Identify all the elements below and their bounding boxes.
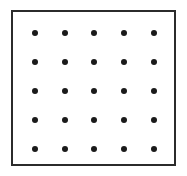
grid-dot <box>121 88 127 94</box>
grid-dot <box>32 88 38 94</box>
figure-root <box>0 0 187 176</box>
grid-dot <box>32 30 38 36</box>
grid-dot <box>151 59 157 65</box>
grid-dot <box>62 59 68 65</box>
grid-dot <box>91 117 97 123</box>
grid-dot <box>121 117 127 123</box>
grid-dot <box>151 30 157 36</box>
grid-dot <box>91 146 97 152</box>
grid-dot <box>62 88 68 94</box>
grid-dot <box>62 117 68 123</box>
grid-dot <box>121 59 127 65</box>
grid-dot <box>121 146 127 152</box>
grid-dot <box>62 146 68 152</box>
grid-dot <box>91 30 97 36</box>
grid-dot <box>91 59 97 65</box>
grid-dot <box>32 146 38 152</box>
grid-dot <box>151 88 157 94</box>
grid-dot <box>91 88 97 94</box>
grid-dot <box>62 30 68 36</box>
grid-dot <box>32 59 38 65</box>
grid-dot <box>121 30 127 36</box>
grid-dot <box>151 146 157 152</box>
grid-dot <box>151 117 157 123</box>
grid-dot <box>32 117 38 123</box>
